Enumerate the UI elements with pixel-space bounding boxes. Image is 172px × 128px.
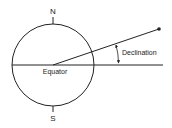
declination-label: Declination xyxy=(122,49,157,56)
declination-ray xyxy=(53,29,159,65)
celestial-declination-diagram: N S Equator Declination xyxy=(0,0,172,128)
south-label: S xyxy=(50,114,55,123)
star-point xyxy=(157,27,161,31)
declination-angle-arc xyxy=(116,45,119,63)
north-label: N xyxy=(50,7,56,16)
equator-label: Equator xyxy=(43,68,68,76)
